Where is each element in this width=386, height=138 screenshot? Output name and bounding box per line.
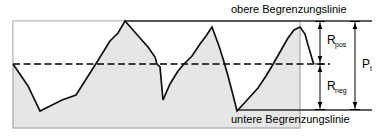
- rneg-label-subscript: neg: [335, 87, 347, 95]
- pt-label-base: P: [362, 57, 370, 71]
- rpos-arrow-up: [318, 23, 323, 29]
- rneg-arrow-up: [318, 66, 323, 72]
- roughness-profile-diagram: obere Begrenzungslinie untere Begrenzung…: [0, 0, 386, 138]
- pt-label-subscript: t: [370, 65, 372, 72]
- upper-limit-label: obere Begrenzungslinie: [231, 3, 347, 15]
- rpos-label-subscript: pos: [335, 41, 347, 49]
- rneg-arrow-down: [318, 102, 323, 108]
- pt-arrow-up: [353, 23, 358, 29]
- rpos-arrow-down: [318, 56, 323, 62]
- profile-svg: obere Begrenzungslinie untere Begrenzung…: [0, 0, 386, 138]
- lower-limit-label: untere Begrenzungslinie: [231, 113, 350, 125]
- pt-arrow-down: [353, 102, 358, 108]
